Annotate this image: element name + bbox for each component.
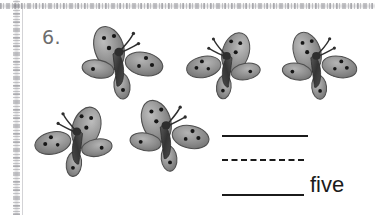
answer-line-3[interactable] [222, 194, 304, 196]
answer-line-2[interactable] [222, 159, 304, 161]
scan-edge-left-icon [13, 0, 20, 215]
butterfly-image-3 [278, 30, 364, 102]
butterfly-image-1 [78, 24, 170, 102]
butterfly-image-5 [126, 96, 216, 176]
answer-line-1[interactable] [222, 135, 308, 137]
margin-rule-line [22, 6, 23, 215]
problem-number: 6. [42, 26, 61, 48]
answer-word-five: five [310, 174, 344, 196]
scan-edge-top-icon [0, 3, 375, 9]
worksheet-page: 6. [0, 0, 375, 215]
butterfly-image-4 [28, 104, 116, 180]
butterfly-image-2 [180, 30, 264, 102]
